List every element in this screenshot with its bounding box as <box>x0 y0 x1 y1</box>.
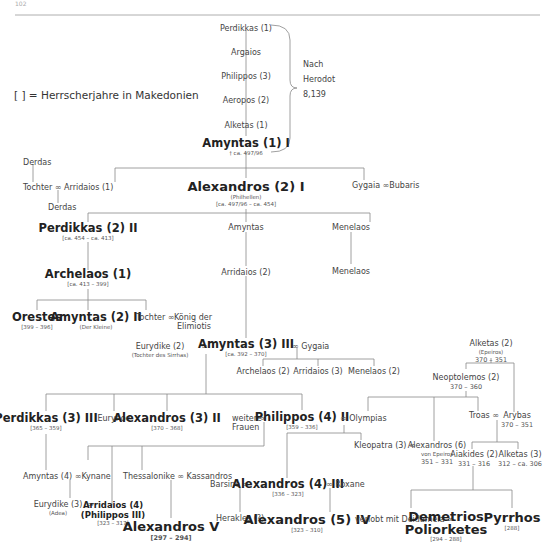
years: 370 – 351 <box>501 421 533 429</box>
marriage-icon: ∞ <box>177 472 184 481</box>
death-date: † ca. 497/96 <box>202 150 289 157</box>
name: Alketas (2) <box>469 339 512 349</box>
node-eurydike2: Eurydike (2) (Tochter des Sirrhas) <box>132 342 189 359</box>
name: Eurydike (2) <box>132 342 189 352</box>
name: Thessalonike <box>123 472 175 481</box>
herodot-note: Nach Herodot 8,139 <box>303 57 335 102</box>
name: Troas <box>469 411 490 420</box>
node-alexandros3: Alexandros (3) II [370 – 368] <box>113 412 221 432</box>
name: Gygaia <box>301 342 329 351</box>
years: [359 – 336] <box>255 424 350 431</box>
name: Amyntas (1) I <box>202 137 289 150</box>
note: (Tochter des Sirrhas) <box>132 352 189 359</box>
node-perdikkas3: Perdikkas (3) III [365 – 359] <box>0 412 98 432</box>
years: [336 – 323] <box>232 491 344 498</box>
name: Tochter <box>136 313 165 322</box>
node-amyntas1: Amyntas (1) I † ca. 497/96 <box>202 137 289 157</box>
years: 312 – ca. 306 <box>498 460 542 468</box>
name: Alexandros V <box>123 519 220 534</box>
name: Kleopatra (3) <box>354 441 406 450</box>
years: [ca. 497/96 – ca. 454] <box>188 201 305 208</box>
node-kleopatra3: Kleopatra (3) ∞ <box>354 441 416 451</box>
node-archelaos2: Archelaos (2) <box>236 367 289 377</box>
node-amyntas4-kynane: Amyntas (4) ∞Kynane <box>23 472 111 482</box>
herodot-alketas1: Alketas (1) <box>224 121 267 131</box>
name: Arybas <box>501 411 533 421</box>
node-aiakides2: Aiakides (2) 331 – 316 <box>450 450 498 468</box>
node-arridaios2: Arridaios (2) <box>221 268 270 278</box>
node-alexandrosV: Alexandros V [297 – 294] <box>123 519 220 542</box>
page-number: 102 <box>15 0 26 7</box>
name: Olympias <box>349 414 386 423</box>
years: 370 – 360 <box>433 383 500 391</box>
herodot-note-line: 8,139 <box>303 87 335 102</box>
node-arridaios3: Arridaios (3) <box>293 367 342 377</box>
node-archelaos1: Archelaos (1) [ca. 413 – 399] <box>45 268 131 288</box>
herodot-philippos3: Philippos (3) <box>221 72 271 82</box>
name: Roxane <box>335 480 364 489</box>
name-line: Arridaios (4) <box>81 500 145 510</box>
years: [ca. 392 – 370] <box>198 351 294 358</box>
marriage-icon: ∞ <box>292 342 299 351</box>
note: (Philhellen) <box>188 194 305 201</box>
years: [ca. 454 – ca. 413] <box>38 235 137 242</box>
years: [365 – 359] <box>0 425 98 432</box>
node-amyntas3: Amyntas (3) III [ca. 392 – 370] <box>198 338 294 358</box>
node-demetrios: Demetrios Poliorketes [294 – 288] <box>405 510 488 543</box>
name-line: Elimiotis <box>174 322 212 331</box>
herodot-perdikkas1: Perdikkas (1) <box>220 24 272 34</box>
marriage-icon: ∞ <box>492 411 499 420</box>
name: Tochter <box>23 183 52 192</box>
name: Pyrrhos <box>484 510 541 525</box>
node-menelaos2: Menelaos <box>332 267 370 277</box>
marriage-icon: ∞ <box>55 183 62 192</box>
name: Alexandros (5) IV <box>243 512 370 527</box>
years: 370 – 351 <box>469 356 512 364</box>
node-gygaia2: ∞ Gygaia <box>292 342 329 352</box>
name-line: König der <box>174 313 212 322</box>
node-gygaia-bubaris: Gygaia ∞Bubaris <box>352 181 419 191</box>
node-olympias: ∞ Olympias <box>340 414 387 424</box>
name: Alexandros (3) II <box>113 412 221 425</box>
years: [288] <box>484 525 541 532</box>
name: Amyntas (2) II <box>50 311 142 324</box>
node-derdas-top: Derdas <box>23 158 51 168</box>
name: Alexandros (2) I <box>188 179 305 194</box>
node-amyntas-mid: Amyntas <box>228 223 263 233</box>
years: 331 – 316 <box>450 460 498 468</box>
name: Amyntas (3) III <box>198 338 294 351</box>
node-roxane: ∞ Roxane <box>326 480 365 490</box>
node-pyrrhos: Pyrrhos [288] <box>484 510 541 532</box>
years: [ca. 413 – 399] <box>45 281 131 288</box>
years: [294 – 288] <box>405 536 488 543</box>
name: Arridaios (1) <box>64 183 113 192</box>
node-eurydike3: Eurydike (3) (Adea) <box>34 500 83 517</box>
node-philippos4: Philippos (4) II [359 – 336] <box>255 411 350 431</box>
marriage-icon: ∞ <box>326 480 333 489</box>
note: (Der Kleine) <box>50 324 142 331</box>
name-line: Poliorketes <box>405 523 488 536</box>
node-derdas-bottom: Derdas <box>48 203 76 213</box>
note: (Adea) <box>34 510 83 517</box>
herodot-note-line: Nach <box>303 57 335 72</box>
name: Eurydike (3) <box>34 500 83 510</box>
node-koenig-elimiotis: König der Elimiotis <box>174 313 212 331</box>
node-tochter1: Tochter ∞ Arridaios (1) <box>23 183 113 193</box>
node-amyntas2: Amyntas (2) II (Der Kleine) <box>50 311 142 331</box>
name: Amyntas (4) <box>23 472 72 481</box>
node-troas: Troas ∞ <box>469 411 499 421</box>
node-alexandros2: Alexandros (2) I (Philhellen) [ca. 497/9… <box>188 179 305 208</box>
note: (Epeiros) <box>469 349 512 356</box>
years: [370 – 368] <box>113 425 221 432</box>
name: Neoptolemos (2) <box>433 373 500 383</box>
marriage-icon: ∞ <box>340 414 347 423</box>
node-alketas3: Alketas (3) 312 – ca. 306 <box>498 450 542 468</box>
node-tochter2: Tochter ∞ <box>136 313 174 323</box>
name: Kynane <box>81 472 110 481</box>
years: [297 – 294] <box>123 534 220 542</box>
legend: [ ] = Herrscherjahre in Makedonien <box>14 89 199 101</box>
node-alexandros5: Alexandros (5) IV [323 – 310] <box>243 512 370 534</box>
name: Philippos (4) II <box>255 411 350 424</box>
name: Perdikkas (2) II <box>38 222 137 235</box>
name: Perdikkas (3) III <box>0 412 98 425</box>
